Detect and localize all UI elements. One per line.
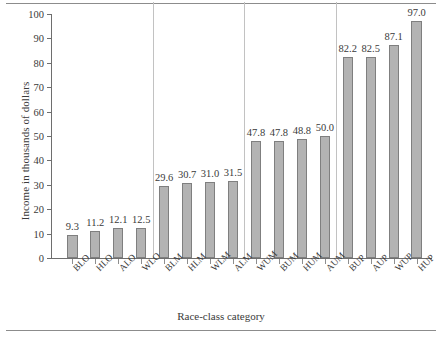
bar	[228, 181, 238, 258]
y-tick-label: 90	[34, 33, 45, 44]
bar-value-label: 47.8	[247, 127, 265, 138]
bar	[411, 21, 421, 258]
bar	[274, 141, 284, 258]
bar-value-label: 82.2	[339, 43, 357, 54]
group-separator-line	[244, 2, 245, 258]
bar-value-label: 29.6	[155, 172, 173, 183]
bar	[366, 57, 376, 258]
bar-value-label: 30.7	[178, 169, 196, 180]
y-tick-mark	[47, 87, 51, 88]
y-axis-title: Income in thousands of dollars	[19, 31, 31, 271]
bar	[90, 231, 100, 258]
y-tick-mark	[47, 63, 51, 64]
y-axis-line	[51, 14, 52, 258]
group-separator-line	[336, 2, 337, 258]
bar-value-label: 87.1	[384, 31, 402, 42]
y-tick-label: 80	[34, 57, 45, 68]
bar-value-label: 11.2	[86, 217, 104, 228]
bar-value-label: 31.5	[224, 167, 242, 178]
y-tick-label: 40	[34, 155, 45, 166]
y-tick-label: 50	[34, 131, 45, 142]
y-tick-mark	[47, 209, 51, 210]
bar	[159, 186, 169, 258]
bar	[320, 136, 330, 258]
bar	[297, 139, 307, 258]
y-tick-label: 20	[34, 204, 45, 215]
bar	[136, 228, 146, 259]
group-separator-line	[153, 2, 154, 258]
bar	[343, 57, 353, 258]
y-tick-mark	[47, 38, 51, 39]
bar	[182, 183, 192, 258]
y-tick-label: 100	[28, 9, 44, 20]
bar-value-label: 9.3	[66, 221, 79, 232]
bar	[205, 182, 215, 258]
bar	[251, 141, 261, 258]
bar-value-label: 31.0	[201, 168, 219, 179]
y-tick-label: 60	[34, 106, 45, 117]
figure-top-rule	[6, 3, 436, 4]
y-tick-label: 10	[34, 228, 45, 239]
bar-value-label: 47.8	[270, 127, 288, 138]
bar-value-label: 50.0	[316, 122, 334, 133]
bar-value-label: 12.5	[132, 214, 150, 225]
y-tick-mark	[47, 14, 51, 15]
y-tick-mark	[47, 160, 51, 161]
y-tick-label: 0	[39, 253, 44, 264]
bar	[389, 45, 399, 258]
bar	[67, 235, 77, 258]
chart-figure: Income in thousands of dollars Race-clas…	[0, 0, 442, 338]
bar-value-label: 82.5	[362, 43, 380, 54]
y-tick-mark	[47, 112, 51, 113]
x-axis-title: Race-class category	[0, 310, 442, 322]
y-tick-mark	[47, 258, 51, 259]
plot-area: 0102030405060708090100 9.311.212.112.529…	[51, 14, 432, 258]
bar-value-label: 12.1	[109, 214, 127, 225]
y-tick-mark	[47, 136, 51, 137]
y-tick-mark	[47, 234, 51, 235]
bar-value-label: 97.0	[407, 7, 425, 18]
bar-value-label: 48.8	[293, 125, 311, 136]
y-tick-label: 30	[34, 179, 45, 190]
y-tick-label: 70	[34, 82, 45, 93]
y-tick-mark	[47, 185, 51, 186]
figure-bottom-rule	[6, 330, 436, 331]
bar	[113, 228, 123, 258]
